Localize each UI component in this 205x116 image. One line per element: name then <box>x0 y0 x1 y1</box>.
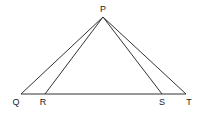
label-S: S <box>159 97 165 107</box>
label-T: T <box>186 97 192 107</box>
segment-PQ <box>21 17 103 94</box>
label-Q: Q <box>12 97 19 107</box>
label-R: R <box>40 97 47 107</box>
segment-PR <box>45 17 103 94</box>
segment-PS <box>103 17 162 94</box>
label-P: P <box>100 4 106 14</box>
segment-PT <box>103 17 186 94</box>
geometry-diagram: P Q R S T <box>0 0 205 116</box>
